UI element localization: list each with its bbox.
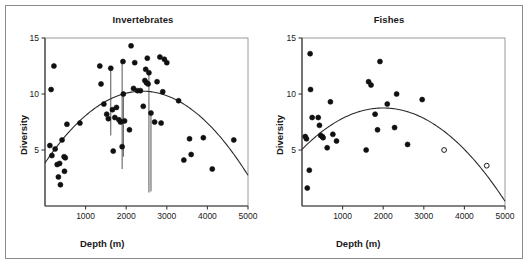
svg-text:1000: 1000 (76, 211, 95, 221)
scatter-plot-fishes: 5101510002000300040005000 (264, 0, 528, 264)
scatter-plot-invertebrates: 5101510002000300040005000 (0, 0, 264, 264)
svg-text:5: 5 (34, 145, 39, 155)
svg-text:5000: 5000 (239, 211, 258, 221)
svg-text:5000: 5000 (496, 211, 515, 221)
y-axis-label-invertebrates: Diversity (18, 115, 29, 155)
svg-text:10: 10 (30, 89, 40, 99)
svg-text:4000: 4000 (198, 211, 217, 221)
svg-text:3000: 3000 (414, 211, 433, 221)
svg-text:15: 15 (287, 33, 297, 43)
panel-fishes: Fishes 5101510002000300040005000 Diversi… (264, 0, 528, 264)
svg-text:15: 15 (30, 33, 40, 43)
svg-text:10: 10 (287, 89, 297, 99)
y-axis-label-fishes: Diversity (274, 115, 285, 155)
panel-invertebrates: Invertebrates 5101510002000300040005000 … (0, 0, 264, 264)
svg-text:5: 5 (291, 145, 296, 155)
x-axis-label-fishes: Depth (m) (336, 238, 380, 249)
svg-text:2000: 2000 (117, 211, 136, 221)
svg-text:1000: 1000 (333, 211, 352, 221)
svg-text:2000: 2000 (374, 211, 393, 221)
svg-text:3000: 3000 (157, 211, 176, 221)
figure-container: Invertebrates 5101510002000300040005000 … (0, 0, 528, 264)
svg-text:4000: 4000 (455, 211, 474, 221)
x-axis-label-invertebrates: Depth (m) (80, 238, 124, 249)
